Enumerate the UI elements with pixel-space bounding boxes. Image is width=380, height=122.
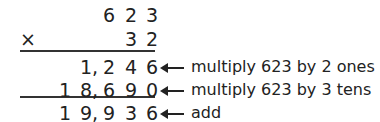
note-partial-ones: multiply 623 by 2 ones	[191, 59, 375, 75]
sum-digit: 9,	[80, 104, 94, 122]
partial-ones-digit: 4	[124, 58, 138, 77]
partial-tens-digit: 1	[58, 81, 72, 100]
multiplier-digit: 3	[124, 30, 138, 49]
sum-digit: 9	[102, 104, 116, 122]
sum-digit: 3	[124, 104, 138, 122]
sum-digit: 1	[58, 104, 72, 122]
sum-digit: 6	[145, 104, 159, 122]
left-arrow-icon	[162, 67, 184, 69]
partial-ones-digit: 6	[145, 58, 159, 77]
note-sum: add	[191, 105, 221, 121]
left-arrow-icon	[162, 90, 184, 92]
partial-tens-digit: 9	[124, 81, 138, 100]
product-rule	[20, 50, 155, 52]
partial-tens-digit: 8,	[80, 81, 94, 100]
partial-ones-digit: 1,	[80, 58, 94, 77]
multiplier-digit: 2	[145, 30, 159, 49]
multiplicand-digit: 2	[124, 6, 138, 25]
left-arrow-icon	[162, 113, 184, 115]
note-partial-tens: multiply 623 by 3 tens	[191, 82, 371, 98]
multiplicand-digit: 3	[145, 6, 159, 25]
multiplicand-digit: 6	[102, 6, 116, 25]
partial-tens-digit: 0	[145, 81, 159, 100]
partial-ones-digit: 2	[102, 58, 116, 77]
partial-tens-digit: 6	[102, 81, 116, 100]
times-operator: ×	[20, 30, 36, 49]
